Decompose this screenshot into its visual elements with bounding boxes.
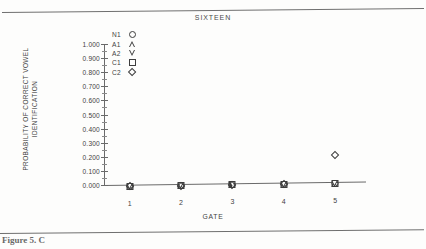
data-point bbox=[178, 175, 184, 193]
y-tick-major bbox=[101, 143, 108, 144]
y-tick-minor bbox=[102, 107, 107, 108]
y-tick-label: 0.300 bbox=[68, 139, 100, 146]
marker-square-icon bbox=[332, 180, 339, 187]
marker-diamond-icon bbox=[128, 68, 137, 77]
y-tick-minor bbox=[102, 122, 107, 123]
y-tick-minor bbox=[102, 93, 107, 94]
legend-item-marker bbox=[127, 31, 138, 38]
y-tick-label: 0.800 bbox=[68, 69, 100, 76]
y-tick-label: 0.400 bbox=[68, 125, 100, 132]
data-point bbox=[332, 173, 339, 191]
legend-item-marker bbox=[127, 41, 138, 47]
legend-item: A2 bbox=[112, 49, 138, 58]
legend-item-label: N1 bbox=[112, 31, 127, 38]
x-tick-label: 2 bbox=[179, 199, 183, 206]
y-tick-major bbox=[101, 72, 108, 73]
legend-item-marker bbox=[127, 59, 138, 66]
y-tick-label: 0.000 bbox=[68, 182, 100, 189]
y-tick-major bbox=[101, 86, 108, 87]
y-tick-label: 0.100 bbox=[68, 167, 100, 174]
legend-item: C2 bbox=[112, 68, 138, 77]
legend-item: N1 bbox=[112, 30, 138, 39]
marker-triangle-up-icon bbox=[129, 41, 136, 47]
x-tick-label: 3 bbox=[230, 198, 234, 205]
marker-diamond-icon bbox=[125, 182, 134, 191]
y-tick-minor bbox=[102, 79, 107, 80]
legend-item-label: C2 bbox=[112, 69, 127, 76]
x-tick-label: 5 bbox=[333, 197, 337, 204]
y-tick-label: 0.200 bbox=[68, 153, 100, 160]
y-tick-major bbox=[101, 58, 108, 59]
x-tick-label: 4 bbox=[282, 198, 286, 205]
legend-item-label: A1 bbox=[112, 41, 127, 48]
y-tick-label: 0.600 bbox=[68, 97, 100, 104]
y-axis-label-line-1: PROBABILITY OF CORRECT VOWEL bbox=[21, 34, 30, 184]
x-axis-label: GATE bbox=[0, 213, 426, 220]
y-tick-major bbox=[101, 129, 108, 130]
legend-item: C1 bbox=[112, 58, 138, 67]
y-tick-major bbox=[101, 171, 108, 172]
y-axis-line bbox=[104, 44, 105, 185]
marker-circle-icon bbox=[129, 31, 136, 38]
y-tick-minor bbox=[102, 178, 107, 179]
legend-item-label: C1 bbox=[112, 59, 127, 66]
marker-square-icon bbox=[129, 59, 136, 66]
marker-diamond-icon bbox=[279, 180, 288, 189]
y-tick-minor bbox=[102, 164, 107, 165]
marker-diamond-icon bbox=[331, 151, 340, 160]
legend-item-marker bbox=[127, 69, 138, 75]
y-axis-label-line-2: IDENTIFICATION bbox=[30, 34, 39, 184]
y-tick-label: 0.500 bbox=[68, 111, 100, 118]
data-point bbox=[332, 144, 338, 162]
data-point bbox=[281, 174, 287, 192]
y-tick-labels: 0.0000.1000.2000.3000.4000.5000.6000.700… bbox=[64, 0, 100, 200]
y-tick-label: 0.700 bbox=[68, 83, 100, 90]
legend-item-label: A2 bbox=[112, 50, 127, 57]
marker-diamond-icon bbox=[177, 182, 186, 191]
y-axis-label: PROBABILITY OF CORRECT VOWEL IDENTIFICAT… bbox=[21, 34, 39, 184]
y-tick-major bbox=[101, 44, 108, 45]
y-tick-major bbox=[101, 157, 108, 158]
y-tick-minor bbox=[102, 136, 107, 137]
marker-diamond-icon bbox=[228, 181, 237, 190]
scatter-plot: PROBABILITY OF CORRECT VOWEL IDENTIFICAT… bbox=[0, 0, 426, 249]
figure-caption: Figure 5. C bbox=[2, 235, 302, 248]
y-tick-minor bbox=[102, 51, 107, 52]
legend-item-marker bbox=[127, 50, 138, 56]
x-tick-label: 1 bbox=[128, 200, 132, 207]
y-tick-minor bbox=[102, 150, 107, 151]
legend: N1A1A2C1C2 bbox=[112, 30, 138, 77]
y-tick-minor bbox=[102, 65, 107, 66]
marker-triangle-down-icon bbox=[129, 50, 136, 56]
y-tick-label: 1.000 bbox=[68, 41, 100, 48]
y-tick-label: 0.900 bbox=[68, 55, 100, 62]
data-point bbox=[127, 176, 133, 194]
data-point bbox=[229, 174, 235, 192]
y-tick-major bbox=[101, 115, 108, 116]
figure-page: SIXTEEN PROBABILITY OF CORRECT VOWEL IDE… bbox=[0, 0, 426, 249]
legend-item: A1 bbox=[112, 39, 138, 48]
y-tick-major bbox=[101, 100, 108, 101]
